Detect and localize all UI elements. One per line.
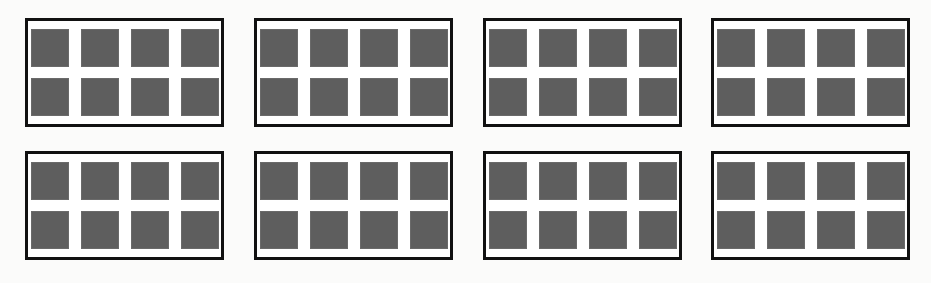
unit-square[interactable] — [181, 78, 219, 116]
unit-square[interactable] — [181, 211, 219, 249]
unit-square-grid — [489, 29, 677, 116]
unit-square[interactable] — [31, 78, 69, 116]
unit-square[interactable] — [489, 29, 527, 67]
unit-square-grid — [31, 162, 219, 249]
unit-square[interactable] — [260, 162, 298, 200]
unit-square[interactable] — [410, 211, 448, 249]
unit-square[interactable] — [639, 211, 677, 249]
unit-square[interactable] — [131, 162, 169, 200]
unit-square[interactable] — [767, 78, 805, 116]
unit-square[interactable] — [489, 211, 527, 249]
unit-square[interactable] — [31, 162, 69, 200]
unit-square[interactable] — [360, 211, 398, 249]
array-group[interactable] — [254, 151, 453, 260]
unit-square[interactable] — [181, 162, 219, 200]
unit-square-grid — [489, 162, 677, 249]
unit-square[interactable] — [767, 29, 805, 67]
unit-square[interactable] — [131, 211, 169, 249]
unit-square[interactable] — [360, 29, 398, 67]
unit-square[interactable] — [131, 29, 169, 67]
unit-square[interactable] — [489, 162, 527, 200]
array-group[interactable] — [483, 151, 682, 260]
unit-square[interactable] — [81, 211, 119, 249]
array-group[interactable] — [711, 151, 910, 260]
unit-square[interactable] — [81, 162, 119, 200]
unit-square[interactable] — [817, 29, 855, 67]
unit-square[interactable] — [767, 162, 805, 200]
unit-square[interactable] — [717, 29, 755, 67]
unit-square[interactable] — [31, 211, 69, 249]
unit-square[interactable] — [867, 29, 905, 67]
array-groups-container — [0, 0, 931, 283]
unit-square[interactable] — [31, 29, 69, 67]
unit-square-grid — [260, 162, 448, 249]
unit-square[interactable] — [867, 78, 905, 116]
unit-square[interactable] — [310, 211, 348, 249]
unit-square[interactable] — [310, 162, 348, 200]
unit-square[interactable] — [539, 162, 577, 200]
unit-square[interactable] — [589, 29, 627, 67]
unit-square-grid — [717, 162, 905, 249]
array-diagram-canvas — [0, 0, 931, 283]
unit-square[interactable] — [867, 211, 905, 249]
unit-square-grid — [260, 29, 448, 116]
unit-square[interactable] — [410, 162, 448, 200]
unit-square[interactable] — [310, 29, 348, 67]
unit-square[interactable] — [817, 78, 855, 116]
unit-square[interactable] — [817, 162, 855, 200]
array-group[interactable] — [25, 18, 224, 127]
unit-square[interactable] — [539, 29, 577, 67]
unit-square[interactable] — [867, 162, 905, 200]
unit-square[interactable] — [260, 78, 298, 116]
unit-square[interactable] — [360, 78, 398, 116]
unit-square[interactable] — [589, 78, 627, 116]
unit-square[interactable] — [131, 78, 169, 116]
unit-square[interactable] — [639, 78, 677, 116]
array-group[interactable] — [483, 18, 682, 127]
unit-square[interactable] — [81, 78, 119, 116]
unit-square[interactable] — [717, 162, 755, 200]
unit-square[interactable] — [539, 78, 577, 116]
unit-square[interactable] — [260, 29, 298, 67]
unit-square[interactable] — [489, 78, 527, 116]
unit-square[interactable] — [639, 162, 677, 200]
unit-square[interactable] — [589, 162, 627, 200]
unit-square[interactable] — [639, 29, 677, 67]
unit-square[interactable] — [410, 78, 448, 116]
unit-square[interactable] — [817, 211, 855, 249]
unit-square[interactable] — [717, 78, 755, 116]
array-group[interactable] — [25, 151, 224, 260]
unit-square[interactable] — [410, 29, 448, 67]
unit-square[interactable] — [360, 162, 398, 200]
unit-square[interactable] — [767, 211, 805, 249]
unit-square[interactable] — [589, 211, 627, 249]
unit-square[interactable] — [81, 29, 119, 67]
unit-square[interactable] — [260, 211, 298, 249]
array-group[interactable] — [254, 18, 453, 127]
unit-square-grid — [31, 29, 219, 116]
unit-square[interactable] — [539, 211, 577, 249]
unit-square[interactable] — [310, 78, 348, 116]
unit-square[interactable] — [717, 211, 755, 249]
unit-square-grid — [717, 29, 905, 116]
array-group[interactable] — [711, 18, 910, 127]
unit-square[interactable] — [181, 29, 219, 67]
